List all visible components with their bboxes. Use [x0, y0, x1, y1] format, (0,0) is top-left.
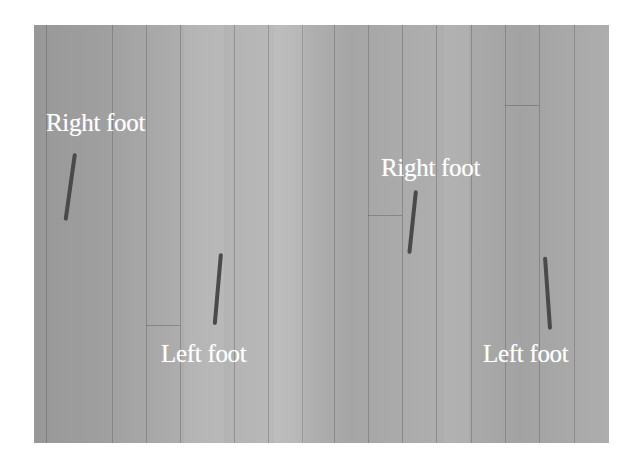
plank-line	[436, 25, 437, 443]
plank-line	[46, 25, 47, 443]
plank-seam	[368, 215, 402, 216]
plank-line	[402, 25, 403, 443]
plank-line	[234, 25, 235, 443]
plank-line	[180, 25, 181, 443]
wood-floor-photo	[34, 25, 609, 443]
plank-line	[574, 25, 575, 443]
plank-line	[505, 25, 506, 443]
left-foot-label: Left foot	[161, 341, 246, 366]
plank-line	[268, 25, 269, 443]
wood-grain	[184, 25, 224, 443]
plank-line	[471, 25, 472, 443]
left-foot-label: Left foot	[483, 341, 568, 366]
wood-grain	[444, 25, 469, 443]
plank-line	[146, 25, 147, 443]
plank-line	[539, 25, 540, 443]
right-foot-label: Right foot	[46, 110, 145, 135]
plank-line	[112, 25, 113, 443]
plank-seam	[505, 105, 539, 106]
plank-line	[334, 25, 335, 443]
right-foot-label: Right foot	[381, 155, 480, 180]
wood-grain	[274, 25, 304, 443]
plank-line	[368, 25, 369, 443]
plank-seam	[146, 325, 180, 326]
